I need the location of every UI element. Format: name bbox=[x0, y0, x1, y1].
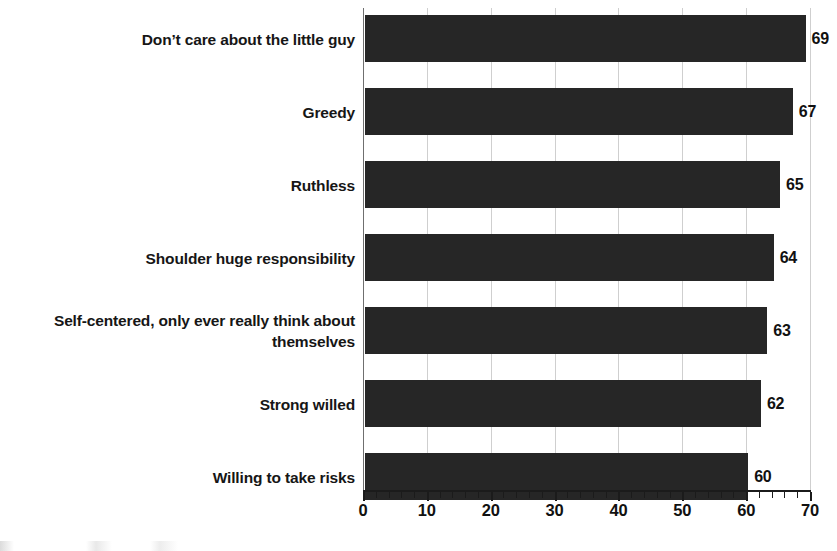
minor-tick bbox=[542, 492, 543, 498]
x-tick-label: 50 bbox=[673, 501, 691, 520]
minor-tick bbox=[401, 492, 402, 498]
minor-tick bbox=[465, 492, 466, 498]
x-axis-tick-labels: 010203040506070 bbox=[363, 501, 823, 527]
minor-tick bbox=[567, 492, 568, 498]
minor-tick bbox=[721, 492, 722, 498]
minor-tick bbox=[708, 492, 709, 498]
minor-tick bbox=[670, 492, 671, 498]
bar-value-label: 63 bbox=[773, 322, 790, 340]
category-label: Ruthless bbox=[3, 174, 355, 195]
minor-tick bbox=[593, 492, 594, 498]
minor-tick bbox=[376, 492, 377, 498]
x-tick-label: 20 bbox=[482, 501, 500, 520]
major-tick bbox=[555, 492, 557, 501]
bar-row: Self-centered, only ever really think ab… bbox=[0, 307, 837, 354]
x-tick-label: 70 bbox=[801, 501, 819, 520]
bar bbox=[365, 234, 774, 281]
minor-tick bbox=[695, 492, 696, 498]
bar-chart: Don’t care about the little guy69Greedy6… bbox=[0, 0, 837, 551]
minor-tick bbox=[657, 492, 658, 498]
bar bbox=[365, 15, 806, 62]
x-tick-label: 40 bbox=[609, 501, 627, 520]
major-tick bbox=[682, 492, 684, 501]
minor-tick bbox=[772, 492, 773, 498]
category-label: Greedy bbox=[3, 101, 355, 122]
bar-row: Greedy67 bbox=[0, 88, 837, 135]
category-label: Self-centered, only ever really think ab… bbox=[3, 310, 355, 352]
minor-tick bbox=[784, 492, 785, 498]
bar-row: Ruthless65 bbox=[0, 161, 837, 208]
category-label: Willing to take risks bbox=[3, 466, 355, 487]
minor-tick bbox=[644, 492, 645, 498]
bar-value-label: 67 bbox=[799, 103, 816, 121]
bar-row: Don’t care about the little guy69 bbox=[0, 15, 837, 62]
bar-value-label: 69 bbox=[812, 30, 829, 48]
x-tick-label: 30 bbox=[546, 501, 564, 520]
minor-tick bbox=[529, 492, 530, 498]
minor-tick bbox=[759, 492, 760, 498]
major-tick bbox=[427, 492, 429, 501]
bar bbox=[365, 88, 793, 135]
minor-tick bbox=[631, 492, 632, 498]
minor-tick bbox=[414, 492, 415, 498]
bar bbox=[365, 380, 761, 427]
major-tick bbox=[491, 492, 493, 501]
minor-tick bbox=[389, 492, 390, 498]
bar-value-label: 60 bbox=[754, 468, 771, 486]
major-tick bbox=[810, 492, 812, 501]
bar-rows: Don’t care about the little guy69Greedy6… bbox=[0, 8, 837, 490]
x-tick-label: 10 bbox=[418, 501, 436, 520]
minor-tick bbox=[440, 492, 441, 498]
scan-artifact bbox=[0, 541, 190, 551]
minor-tick bbox=[797, 492, 798, 498]
bar bbox=[365, 307, 767, 354]
bar-value-label: 64 bbox=[780, 249, 797, 267]
x-axis-line bbox=[363, 490, 811, 492]
category-label: Strong willed bbox=[3, 393, 355, 414]
minor-tick bbox=[606, 492, 607, 498]
minor-tick bbox=[733, 492, 734, 498]
bar-row: Strong willed62 bbox=[0, 380, 837, 427]
x-axis bbox=[363, 490, 811, 499]
category-label: Don’t care about the little guy bbox=[3, 28, 355, 49]
major-tick bbox=[746, 492, 748, 501]
major-tick bbox=[618, 492, 620, 501]
category-label: Shoulder huge responsibility bbox=[3, 247, 355, 268]
major-tick bbox=[363, 492, 365, 501]
bar-row: Shoulder huge responsibility64 bbox=[0, 234, 837, 281]
bar-value-label: 65 bbox=[786, 176, 803, 194]
minor-tick bbox=[580, 492, 581, 498]
minor-tick bbox=[478, 492, 479, 498]
minor-tick bbox=[452, 492, 453, 498]
x-tick-label: 60 bbox=[737, 501, 755, 520]
bar-value-label: 62 bbox=[767, 395, 784, 413]
minor-tick bbox=[516, 492, 517, 498]
minor-tick bbox=[503, 492, 504, 498]
bar bbox=[365, 161, 780, 208]
x-tick-label: 0 bbox=[359, 501, 368, 520]
